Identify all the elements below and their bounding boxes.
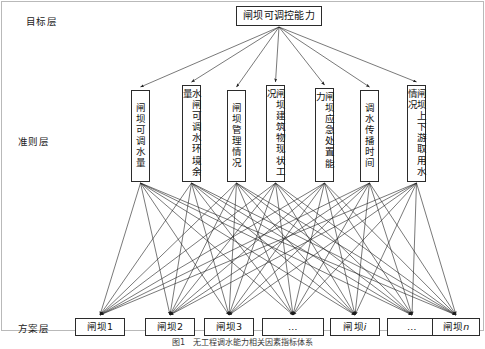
alternative-node-7[interactable]: 闸坝n bbox=[432, 318, 480, 336]
goal-node[interactable]: 闸坝可调控能力 bbox=[236, 6, 322, 26]
alternative-node-label: 闸坝3 bbox=[216, 322, 243, 332]
alternative-node-label: 闸坝 bbox=[443, 322, 464, 332]
criterion-node-1[interactable]: 闸坝可调水量 bbox=[131, 90, 150, 182]
alternative-node-label: … bbox=[288, 322, 298, 332]
criterion-node-label: 闸坝应急处置能力 bbox=[315, 92, 335, 178]
criterion-node-label: 闸坝建筑物现状工况 bbox=[266, 89, 286, 178]
alternative-node-label: 闸坝2 bbox=[157, 322, 184, 332]
alternative-node-1[interactable]: 闸坝1 bbox=[75, 318, 125, 336]
alternative-node-3[interactable]: 闸坝3 bbox=[204, 318, 254, 336]
criterion-node-4[interactable]: 闸坝建筑物现状工况 bbox=[266, 85, 285, 182]
alternative-node-index: i bbox=[364, 322, 367, 332]
criterion-node-label: 闸坝上下游取用水情况 bbox=[407, 89, 427, 178]
alternative-node-index: n bbox=[463, 322, 469, 332]
layer-label-criteria: 准则层 bbox=[18, 134, 49, 148]
figure-caption: 图1 无工程调水能力相关因素指标体系 bbox=[0, 336, 485, 349]
layer-label-goal: 目标层 bbox=[26, 14, 57, 28]
alternative-node-5[interactable]: 闸坝i bbox=[330, 318, 380, 336]
alternative-node-label: … bbox=[407, 322, 417, 332]
alternative-node-4[interactable]: … bbox=[262, 318, 324, 336]
criterion-node-3[interactable]: 闸坝管理情况 bbox=[227, 90, 246, 182]
layer-label-alternatives: 方案层 bbox=[18, 321, 49, 335]
alternative-node-2[interactable]: 闸坝2 bbox=[145, 318, 195, 336]
criterion-node-2[interactable]: 水闸可调水环境余量 bbox=[182, 85, 201, 182]
criterion-node-7[interactable]: 闸坝上下游取用水情况 bbox=[407, 85, 426, 182]
alternative-node-label: 闸坝1 bbox=[87, 322, 114, 332]
criterion-node-6[interactable]: 调水传播时间 bbox=[360, 90, 379, 182]
criterion-node-label: 调水传播时间 bbox=[365, 103, 375, 170]
criterion-node-label: 水闸可调水环境余量 bbox=[182, 89, 202, 178]
criterion-node-5[interactable]: 闸坝应急处置能力 bbox=[315, 88, 334, 182]
criterion-node-label: 闸坝可调水量 bbox=[136, 103, 146, 170]
criterion-node-label: 闸坝管理情况 bbox=[232, 103, 242, 170]
alternative-node-6[interactable]: … bbox=[387, 318, 437, 336]
alternative-node-label: 闸坝 bbox=[343, 322, 364, 332]
diagram-canvas: 目标层 准则层 方案层 闸坝可调控能力 闸坝可调水量水闸可调水环境余量闸坝管理情… bbox=[0, 0, 485, 349]
